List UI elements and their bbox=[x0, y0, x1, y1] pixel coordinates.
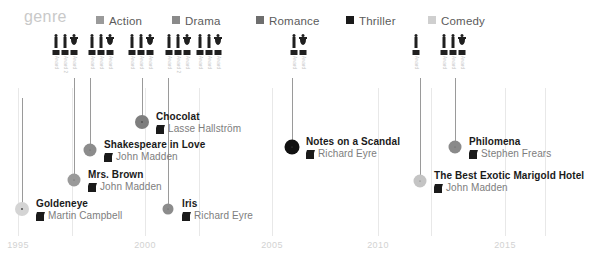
oscar-statuette-icon bbox=[299, 34, 307, 55]
film-director-name: John Madden bbox=[100, 181, 162, 193]
legend-item-label: Thriller bbox=[359, 15, 396, 27]
film-director-row: Lasse Hallström bbox=[156, 123, 241, 135]
award-label-text: Award bbox=[414, 56, 419, 69]
award-label-text: Award bbox=[90, 56, 95, 69]
film-genre-dot[interactable] bbox=[449, 141, 462, 154]
oscar-statuette-icon bbox=[458, 34, 466, 55]
award-icon-row bbox=[165, 34, 191, 55]
award-label-row: AwardAwardAward bbox=[88, 56, 114, 78]
award-label: Award bbox=[196, 56, 204, 78]
film-director-name: Richard Eyre bbox=[318, 148, 377, 160]
award-label: Award bbox=[70, 56, 78, 78]
award-group: AwardAwardAward bbox=[128, 34, 154, 78]
award-label: Award bbox=[214, 56, 222, 78]
film-genre-dot[interactable] bbox=[135, 115, 149, 129]
timeline-chart: genre ActionDramaRomanceThrillerComedy 1… bbox=[0, 0, 599, 259]
clapperboard-icon bbox=[182, 212, 190, 221]
film-director-row: John Madden bbox=[434, 182, 584, 194]
oscar-statuette-icon bbox=[70, 34, 78, 55]
award-icon-row bbox=[52, 34, 78, 55]
oscar-statuette-icon bbox=[146, 34, 154, 55]
award-label-row: AwardAward 2Award bbox=[52, 56, 78, 78]
award-icon-row bbox=[128, 34, 154, 55]
award-label: Award bbox=[299, 56, 307, 78]
oscar-statuette-icon bbox=[137, 34, 145, 55]
legend-item-label: Comedy bbox=[441, 15, 485, 27]
legend-item-action[interactable]: Action bbox=[96, 11, 142, 25]
award-label: Award bbox=[165, 56, 173, 78]
award-group: AwardAwardAward bbox=[440, 34, 466, 78]
clapperboard-icon bbox=[36, 212, 44, 221]
award-label: Award bbox=[97, 56, 105, 78]
legend-swatch-icon bbox=[256, 16, 264, 24]
award-label-row: AwardAwardAward bbox=[196, 56, 222, 78]
legend-item-comedy[interactable]: Comedy bbox=[428, 11, 485, 25]
film-genre-dot[interactable] bbox=[15, 202, 29, 216]
award-label: Award bbox=[458, 56, 466, 78]
film-genre-dot[interactable] bbox=[414, 175, 427, 188]
film-text-block: GoldeneyeMartin Campbell bbox=[36, 198, 122, 222]
oscar-statuette-icon bbox=[290, 34, 298, 55]
award-label: Award bbox=[106, 56, 114, 78]
oscar-statuette-icon bbox=[440, 34, 448, 55]
legend-title: genre bbox=[24, 8, 67, 26]
film-text-block: The Best Exotic Marigold HotelJohn Madde… bbox=[434, 170, 584, 194]
clapperboard-icon bbox=[306, 150, 314, 159]
award-label: Award bbox=[412, 56, 420, 78]
film-text-block: Shakespeare in LoveJohn Madden bbox=[104, 139, 205, 163]
award-label-row: Award bbox=[412, 56, 420, 78]
genre-legend: genre ActionDramaRomanceThrillerComedy bbox=[0, 6, 599, 30]
award-group: AwardAward 2Award bbox=[52, 34, 78, 78]
film-genre-dot[interactable] bbox=[285, 140, 300, 155]
award-label-row: AwardAwardAward bbox=[128, 56, 154, 78]
film-director-name: Martin Campbell bbox=[48, 210, 122, 222]
axis-tick-label: 2010 bbox=[367, 240, 389, 250]
film-stem bbox=[90, 78, 91, 150]
oscar-statuette-icon bbox=[106, 34, 114, 55]
film-stem bbox=[74, 78, 75, 180]
axis-tick-label: 2005 bbox=[261, 240, 283, 250]
award-label: Award bbox=[52, 56, 60, 78]
film-title: The Best Exotic Marigold Hotel bbox=[434, 170, 584, 182]
award-icon-row bbox=[440, 34, 466, 55]
film-director-row: John Madden bbox=[104, 151, 205, 163]
legend-item-drama[interactable]: Drama bbox=[172, 11, 221, 25]
legend-item-thriller[interactable]: Thriller bbox=[346, 11, 396, 25]
award-label-text: Award bbox=[148, 56, 153, 69]
film-title: Philomena bbox=[469, 136, 551, 148]
clapperboard-icon bbox=[469, 150, 477, 159]
gridline bbox=[505, 88, 506, 236]
oscar-statuette-icon bbox=[205, 34, 213, 55]
award-label: Award bbox=[440, 56, 448, 78]
gridline bbox=[272, 88, 273, 236]
oscar-statuette-icon bbox=[61, 34, 69, 55]
legend-item-label: Action bbox=[109, 15, 142, 27]
oscar-statuette-icon bbox=[165, 34, 173, 55]
award-group: AwardAward 2Award bbox=[165, 34, 191, 78]
award-group: AwardAward bbox=[290, 34, 307, 78]
clapperboard-icon bbox=[434, 184, 442, 193]
film-text-block: PhilomenaStephen Frears bbox=[469, 136, 551, 160]
film-genre-dot[interactable] bbox=[84, 144, 97, 157]
award-label-text: Award bbox=[72, 56, 77, 69]
film-director-name: John Madden bbox=[116, 151, 178, 163]
award-group: AwardAwardAward bbox=[196, 34, 222, 78]
film-genre-dot[interactable] bbox=[68, 174, 81, 187]
award-label-text: Award bbox=[451, 56, 456, 69]
award-icon-row bbox=[196, 34, 222, 55]
award-label-text: Award bbox=[99, 56, 104, 69]
film-genre-dot[interactable] bbox=[163, 204, 174, 215]
film-title: Notes on a Scandal bbox=[306, 136, 400, 148]
oscar-statuette-icon bbox=[97, 34, 105, 55]
award-label-text: Award bbox=[185, 56, 190, 69]
legend-swatch-icon bbox=[96, 16, 104, 24]
award-label: Award bbox=[205, 56, 213, 78]
award-icon-row bbox=[88, 34, 114, 55]
award-icon-row bbox=[290, 34, 307, 55]
award-label-text: Award bbox=[292, 56, 297, 69]
oscar-statuette-icon bbox=[52, 34, 60, 55]
award-label-row: AwardAward 2Award bbox=[165, 56, 191, 78]
award-label: Award bbox=[128, 56, 136, 78]
film-director-row: Martin Campbell bbox=[36, 210, 122, 222]
legend-item-romance[interactable]: Romance bbox=[256, 11, 320, 25]
